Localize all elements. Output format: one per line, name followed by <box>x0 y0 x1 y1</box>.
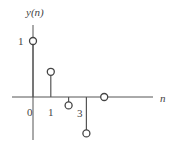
stem-marker <box>101 94 108 101</box>
stem-marker <box>47 68 54 75</box>
x-tick-0: 0 <box>27 107 33 118</box>
x-tick-3: 3 <box>77 108 83 119</box>
plot-canvas <box>0 0 175 147</box>
stem-plot: y(n) n 1 0 1 3 <box>0 0 175 147</box>
y-axis-label: y(n) <box>26 7 44 18</box>
stems <box>30 38 108 137</box>
x-axis-label: n <box>160 93 166 104</box>
stem-marker <box>30 38 37 45</box>
y-tick-1: 1 <box>18 36 24 47</box>
stem-marker <box>83 130 90 137</box>
stem-marker <box>65 102 72 109</box>
x-tick-1: 1 <box>48 107 54 118</box>
